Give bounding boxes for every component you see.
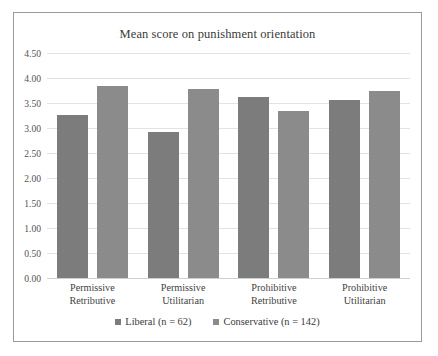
bar[interactable]	[278, 111, 309, 278]
bar-group	[138, 53, 229, 278]
x-axis-category-label: PermissiveRetributive	[47, 281, 138, 307]
y-axis-tick-label: 3.00	[24, 123, 41, 134]
y-axis-tick-label: 1.50	[24, 198, 41, 209]
bar[interactable]	[148, 132, 179, 278]
bar[interactable]	[329, 100, 360, 278]
legend-item[interactable]: Liberal (n = 62)	[115, 316, 191, 327]
y-axis-tick-label: 2.50	[24, 148, 41, 159]
category-label-line1: Prohibitive	[342, 282, 387, 293]
x-axis-category-label: PermissiveUtilitarian	[138, 281, 229, 307]
legend-label: Conservative (n = 142)	[223, 316, 319, 327]
category-label-line2: Retributive	[47, 294, 138, 307]
y-axis-tick-label: 3.50	[24, 98, 41, 109]
x-axis-category-label: ProhibitiveUtilitarian	[319, 281, 410, 307]
plot-area: 4.504.003.503.002.502.001.501.000.500.00	[47, 53, 410, 278]
bar-group	[229, 53, 320, 278]
x-axis-category-label: ProhibitiveRetributive	[229, 281, 320, 307]
y-axis-tick-label: 0.50	[24, 248, 41, 259]
legend-label: Liberal (n = 62)	[125, 316, 191, 327]
bar[interactable]	[369, 91, 400, 278]
y-axis-tick-label: 2.00	[24, 173, 41, 184]
x-axis-category-labels: PermissiveRetributivePermissiveUtilitari…	[47, 281, 410, 307]
legend-swatch-icon	[115, 319, 121, 325]
legend-item[interactable]: Conservative (n = 142)	[213, 316, 319, 327]
category-label-line2: Retributive	[229, 294, 320, 307]
chart-legend: Liberal (n = 62)Conservative (n = 142)	[14, 316, 421, 327]
category-label-line1: Prohibitive	[251, 282, 296, 293]
bar-group	[319, 53, 410, 278]
chart-frame: Mean score on punishment orientation 4.5…	[13, 12, 422, 342]
category-label-line2: Utilitarian	[319, 294, 410, 307]
bar[interactable]	[188, 89, 219, 278]
bar[interactable]	[57, 115, 88, 278]
bar[interactable]	[97, 86, 128, 278]
chart-title: Mean score on punishment orientation	[14, 27, 421, 42]
y-axis-tick-label: 4.00	[24, 73, 41, 84]
bar-group	[47, 53, 138, 278]
y-axis-tick-label: 1.00	[24, 223, 41, 234]
y-axis-tick-label: 4.50	[24, 48, 41, 59]
category-label-line1: Permissive	[70, 282, 115, 293]
y-axis-tick-label: 0.00	[24, 273, 41, 284]
category-label-line2: Utilitarian	[138, 294, 229, 307]
bar-series-container	[47, 53, 410, 278]
x-axis-line	[47, 278, 410, 279]
bar[interactable]	[238, 97, 269, 278]
legend-swatch-icon	[213, 319, 219, 325]
category-label-line1: Permissive	[161, 282, 206, 293]
